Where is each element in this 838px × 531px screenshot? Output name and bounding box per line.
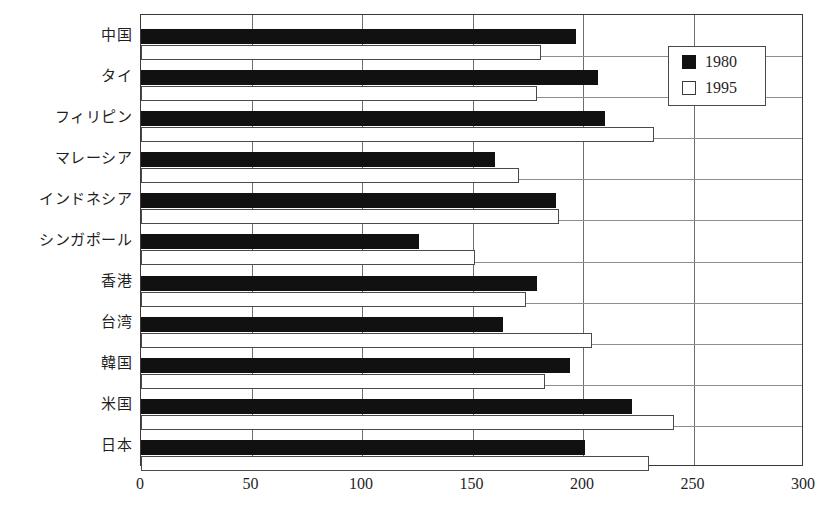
legend-label-1995: 1995	[705, 80, 737, 96]
bar-1995-米国	[141, 415, 674, 430]
x-axis-labels: 050100150200250300	[0, 474, 838, 500]
chart-legend: 1980 1995	[668, 46, 766, 106]
y-axis-label-7: 台湾	[0, 313, 132, 331]
bar-1980-シンガポール	[141, 234, 419, 249]
x-axis-tick-label-0: 0	[110, 474, 170, 494]
legend-label-1980: 1980	[705, 54, 737, 70]
y-axis-label-4: インドネシア	[0, 190, 132, 208]
bar-1980-韓国	[141, 358, 570, 373]
x-axis-tick-label-100: 100	[331, 474, 391, 494]
y-axis-labels: 中国タイフィリピンマレーシアインドネシアシンガポール香港台湾韓国米国日本	[0, 14, 132, 466]
y-axis-label-9: 米国	[0, 395, 132, 413]
bar-1995-台湾	[141, 333, 592, 348]
bar-1995-日本	[141, 456, 649, 471]
x-axis-tick-label-200: 200	[552, 474, 612, 494]
x-axis-tick-label-150: 150	[442, 474, 502, 494]
bar-1995-香港	[141, 292, 526, 307]
x-axis-tick-label-50: 50	[221, 474, 281, 494]
legend-entry-1995: 1995	[682, 80, 737, 96]
legend-swatch-filled-icon	[682, 55, 696, 69]
bar-1980-インドネシア	[141, 193, 556, 208]
bar-1980-香港	[141, 276, 537, 291]
y-axis-label-3: マレーシア	[0, 149, 132, 167]
x-axis-tick-label-250: 250	[663, 474, 723, 494]
bar-1995-シンガポール	[141, 250, 475, 265]
bar-1980-米国	[141, 399, 632, 414]
y-axis-label-5: シンガポール	[0, 231, 132, 249]
bar-1980-中国	[141, 29, 576, 44]
bar-1980-フィリピン	[141, 111, 605, 126]
bar-1995-フィリピン	[141, 127, 654, 142]
bar-1995-インドネシア	[141, 209, 559, 224]
bar-1995-タイ	[141, 86, 537, 101]
bar-1980-日本	[141, 440, 585, 455]
bar-1995-マレーシア	[141, 168, 519, 183]
bar-chart: 中国タイフィリピンマレーシアインドネシアシンガポール香港台湾韓国米国日本 050…	[0, 0, 838, 531]
legend-swatch-hollow-icon	[682, 81, 696, 95]
y-axis-label-10: 日本	[0, 436, 132, 454]
y-axis-label-6: 香港	[0, 272, 132, 290]
x-axis-tick-label-300: 300	[773, 474, 833, 494]
y-axis-label-1: タイ	[0, 67, 132, 85]
y-axis-label-2: フィリピン	[0, 108, 132, 126]
bar-1995-中国	[141, 45, 541, 60]
y-axis-label-8: 韓国	[0, 354, 132, 372]
bar-1995-韓国	[141, 374, 545, 389]
y-axis-label-0: 中国	[0, 26, 132, 44]
bar-1980-台湾	[141, 317, 503, 332]
bar-1980-マレーシア	[141, 152, 495, 167]
legend-entry-1980: 1980	[682, 54, 737, 70]
bar-1980-タイ	[141, 70, 598, 85]
